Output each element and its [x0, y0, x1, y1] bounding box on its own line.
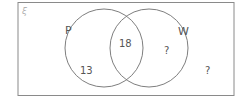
outside-value: ? [205, 65, 210, 76]
p-only-value: 13 [80, 65, 93, 76]
w-only-value: ? [164, 45, 169, 56]
set-w-label: W [178, 25, 189, 38]
set-p-label: P [65, 24, 72, 37]
venn-diagram: ξ P W 18 13 ? ? [0, 0, 239, 98]
intersection-value: 18 [119, 38, 132, 49]
universal-set-symbol: ξ [21, 6, 28, 16]
